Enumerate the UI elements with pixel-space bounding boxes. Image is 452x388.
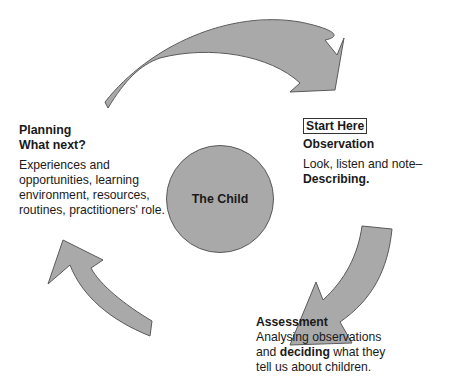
observation-line-bold: Describing. (303, 172, 422, 187)
planning-subtitle: What next? (19, 138, 165, 153)
planning-line: Experiences and (19, 158, 165, 173)
assessment-line: Analysing observations (256, 330, 385, 345)
observation-line: Look, listen and note– (303, 157, 422, 172)
center-label: The Child (192, 192, 248, 206)
planning-line: routines, practitioners' role. (19, 203, 165, 218)
assessment-title: Assessment (256, 315, 385, 330)
assessment-bold-text: deciding (280, 345, 330, 359)
planning-line: opportunities, learning (19, 173, 165, 188)
planning-stage: Planning What next? Experiences and oppo… (19, 123, 165, 218)
assessment-text: and (256, 345, 280, 359)
arrow-left (48, 240, 152, 336)
planning-title: Planning (19, 123, 165, 138)
assessment-line: and deciding what they (256, 345, 385, 360)
center-circle-the-child: The Child (166, 145, 274, 253)
observation-stage: Start Here Observation Look, listen and … (303, 118, 422, 187)
planning-line: environment, resources, (19, 188, 165, 203)
planning-description: Experiences and opportunities, learning … (19, 158, 165, 218)
arrow-top (105, 20, 344, 108)
assessment-text: what they (330, 345, 386, 359)
assessment-stage: Assessment Analysing observations and de… (256, 315, 385, 375)
start-here-label: Start Here (303, 118, 367, 134)
observation-title: Observation (303, 137, 422, 152)
assessment-line: tell us about children. (256, 360, 385, 375)
observation-description: Look, listen and note– Describing. (303, 157, 422, 187)
